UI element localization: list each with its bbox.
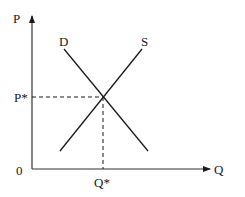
supply-demand-diagram: P Q 0 D S P* Q*	[0, 0, 245, 197]
equilibrium-quantity-label: Q*	[94, 175, 110, 190]
diagram-canvas: P Q 0 D S P* Q*	[0, 0, 245, 197]
supply-label: S	[141, 34, 148, 49]
supply-curve	[60, 49, 142, 151]
equilibrium-price-label: P*	[14, 90, 28, 105]
demand-curve	[64, 49, 148, 151]
x-axis-label: Q	[214, 162, 224, 177]
origin-label: 0	[16, 163, 23, 178]
demand-label: D	[59, 34, 68, 49]
y-axis-label: P	[13, 11, 20, 26]
